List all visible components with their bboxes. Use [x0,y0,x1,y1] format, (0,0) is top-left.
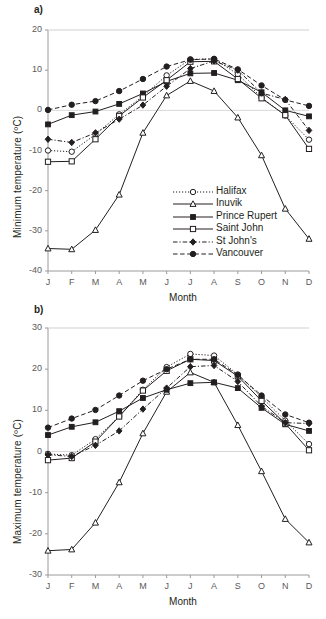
legend-swatch-filled-square [172,211,214,223]
y-tick-label: 10 [20,64,42,74]
series-marker-prince-rupert [307,114,312,119]
series-marker-saint-john [45,159,50,164]
series-marker-vancouver [164,64,169,69]
series-marker-vancouver [164,366,169,371]
series-line-halifax [48,354,309,455]
panel-b-plot [0,300,326,619]
series-marker-vancouver [188,357,193,362]
series-marker-prince-rupert [93,109,98,114]
legend-swatch-open-square [172,223,214,235]
series-line-halifax [48,59,309,152]
series-marker-st-john-s [188,363,194,369]
legend-swatch-open-circle [172,186,214,198]
x-tick-label: M [88,277,102,287]
legend-label: Vancouver [216,247,263,258]
series-marker-vancouver [306,103,311,108]
series-marker-prince-rupert [46,433,51,438]
series-marker-vancouver [69,102,74,107]
x-tick-label: F [65,581,79,591]
x-tick-label: D [302,581,316,591]
series-marker-halifax [45,148,50,153]
series-marker-vancouver [188,57,193,62]
x-tick-label: A [207,277,221,287]
series-marker-vancouver [45,107,50,112]
series-marker-vancouver [93,407,98,412]
series-marker-prince-rupert [69,424,74,429]
x-tick-label: J [41,581,55,591]
series-marker-saint-john [235,76,240,81]
y-tick-label: 20 [20,363,42,373]
legend-marker [190,189,195,194]
panel-a-minimum-temperature: a) Minimum temperature (ºC) Month Halifa… [0,0,326,310]
series-marker-prince-rupert [69,113,74,118]
series-marker-vancouver [235,372,240,377]
y-tick-label: -40 [20,265,42,275]
series-marker-saint-john [306,448,311,453]
series-marker-vancouver [140,378,145,383]
series-marker-prince-rupert [46,122,51,127]
series-marker-inuvik [140,130,146,136]
y-tick-label: -10 [20,487,42,497]
series-line-st-john-s [48,365,309,456]
series-marker-st-john-s [235,378,241,384]
legend-label: St John's [216,235,257,246]
x-tick-label: S [231,277,245,287]
x-tick-label: M [136,581,150,591]
legend-swatch-filled-diamond [172,236,214,248]
series-marker-prince-rupert [93,420,98,425]
x-tick-label: A [207,581,221,591]
series-marker-inuvik [235,422,241,428]
y-tick-label: -20 [20,185,42,195]
x-tick-label: O [255,581,269,591]
panel-a-plot [0,0,326,310]
series-marker-prince-rupert [212,71,217,76]
panel-b-maximum-temperature: b) Maximum temperature (ºC) Month -30-20… [0,300,326,619]
series-marker-inuvik [116,479,122,485]
series-marker-halifax [69,149,74,154]
series-marker-inuvik [140,430,146,436]
legend-marker [190,238,196,244]
legend-swatch-open-triangle [172,198,214,210]
y-tick-label: 10 [20,404,42,414]
series-marker-inuvik [282,516,288,522]
series-line-saint-john [48,61,309,161]
series-marker-prince-rupert [117,102,122,107]
series-marker-vancouver [69,416,74,421]
x-tick-label: J [160,581,174,591]
legend-label: Halifax [216,185,247,196]
series-marker-vancouver [140,76,145,81]
series-line-prince-rupert [48,73,309,124]
y-tick-label: -20 [20,528,42,538]
series-marker-prince-rupert [188,381,193,386]
series-marker-vancouver [211,357,216,362]
series-marker-inuvik [282,206,288,212]
series-marker-inuvik [164,92,170,98]
series-marker-saint-john [93,137,98,142]
series-marker-inuvik [187,78,193,84]
series-line-inuvik [48,372,309,550]
legend-label: Saint John [216,222,263,233]
series-marker-inuvik [116,191,122,197]
series-marker-vancouver [116,88,121,93]
y-tick-label: -10 [20,145,42,155]
x-tick-label: J [160,277,174,287]
legend-marker [191,214,196,219]
y-tick-label: -30 [20,569,42,579]
series-line-vancouver [48,59,309,110]
series-marker-saint-john [140,95,145,100]
legend-label: Inuvik [216,197,242,208]
y-tick-label: 30 [20,322,42,332]
series-marker-st-john-s [140,102,146,108]
series-marker-saint-john [117,414,122,419]
legend-marker [190,251,195,256]
series-marker-vancouver [283,412,288,417]
series-marker-vancouver [211,56,216,61]
series-marker-halifax [188,351,193,356]
x-tick-label: J [41,277,55,287]
x-tick-label: J [183,277,197,287]
x-tick-label: N [278,581,292,591]
y-tick-label: 20 [20,24,42,34]
x-tick-label: S [231,581,245,591]
series-marker-saint-john [306,146,311,151]
series-marker-vancouver [116,393,121,398]
